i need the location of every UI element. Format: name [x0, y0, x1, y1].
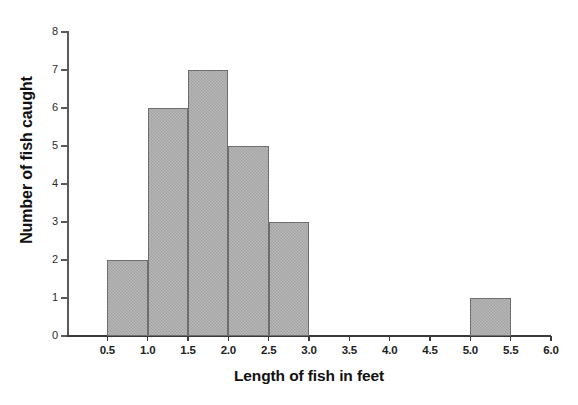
x-axis-tick	[107, 336, 109, 341]
y-axis-tick-label: 3	[42, 216, 58, 227]
x-axis-tick	[349, 336, 351, 341]
x-axis-tick-label: 4.0	[370, 344, 410, 356]
histogram-bar	[470, 298, 510, 336]
x-axis-tick-label: 5.5	[491, 344, 531, 356]
y-axis-tick	[61, 297, 67, 299]
histogram-bar	[107, 260, 147, 336]
y-axis-tick-label: 2	[42, 254, 58, 265]
x-axis-tick-label: 3.0	[289, 344, 329, 356]
y-axis-tick	[61, 145, 67, 147]
x-axis-tick	[308, 336, 310, 341]
y-axis-tick-label: 0	[42, 330, 58, 341]
y-axis-tick	[61, 335, 67, 337]
x-axis-tick	[470, 336, 472, 341]
histogram-bar	[188, 70, 228, 336]
y-axis-tick	[61, 31, 67, 33]
y-axis-tick-label: 6	[42, 102, 58, 113]
x-axis-tick-label: 2.5	[249, 344, 289, 356]
x-axis-tick-label: 2.0	[208, 344, 248, 356]
histogram-figure: Number of fish caught 012345678 0.51.01.…	[0, 0, 578, 405]
y-axis-tick-label: 7	[42, 64, 58, 75]
y-axis-tick-label: 5	[42, 140, 58, 151]
x-axis-tick	[510, 336, 512, 341]
y-axis-tick	[61, 69, 67, 71]
y-axis-tick	[61, 259, 67, 261]
x-axis-tick	[389, 336, 391, 341]
histogram-bar	[269, 222, 309, 336]
x-axis-tick-label: 1.5	[168, 344, 208, 356]
y-axis-tick-label: 4	[42, 178, 58, 189]
x-axis-tick	[228, 336, 230, 341]
x-axis-tick-label: 6.0	[531, 344, 571, 356]
x-axis-title: Length of fish in feet	[67, 367, 551, 385]
y-axis-line	[67, 31, 69, 337]
y-axis-tick	[61, 107, 67, 109]
histogram-bar	[228, 146, 268, 336]
x-axis-tick	[187, 336, 189, 341]
x-axis-tick-label: 1.0	[128, 344, 168, 356]
x-axis-tick	[429, 336, 431, 341]
x-axis-tick	[147, 336, 149, 341]
x-axis-tick	[268, 336, 270, 341]
x-axis-tick-label: 5.0	[450, 344, 490, 356]
x-axis-tick-label: 4.5	[410, 344, 450, 356]
y-axis-tick-label: 8	[42, 26, 58, 37]
y-axis-tick-label: 1	[42, 292, 58, 303]
y-axis-title: Number of fish caught	[16, 10, 38, 310]
x-axis-tick-label: 0.5	[87, 344, 127, 356]
y-axis-tick	[61, 221, 67, 223]
x-axis-tick-label: 3.5	[329, 344, 369, 356]
y-axis-tick	[61, 183, 67, 185]
histogram-bar	[148, 108, 188, 336]
x-axis-tick	[550, 336, 552, 341]
